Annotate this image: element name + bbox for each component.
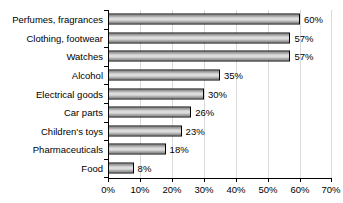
bar [108, 14, 300, 25]
category-label: Children's toys [41, 125, 103, 136]
bar-value-label: 18% [170, 144, 189, 155]
x-axis-tick [172, 178, 173, 182]
x-axis-tick-label: 30% [194, 184, 213, 195]
category-label: Watches [66, 51, 103, 62]
y-axis-tick [104, 159, 108, 160]
category-label: Car parts [64, 107, 103, 118]
category-label: Alcohol [72, 70, 103, 81]
y-axis-tick [104, 122, 108, 123]
bar [108, 51, 290, 62]
category-label: Food [81, 163, 103, 174]
chart-row: Pharmaceuticals 18% [0, 140, 343, 159]
bar [108, 125, 182, 136]
x-axis-tick-label: 60% [290, 184, 309, 195]
x-axis-tick-label: 20% [162, 184, 181, 195]
chart-row: Clothing, footwear 57% [0, 29, 343, 48]
x-axis-tick-label: 50% [258, 184, 277, 195]
x-axis-tick [300, 178, 301, 182]
x-axis-tick-label: 40% [226, 184, 245, 195]
chart-row: Food 8% [0, 159, 343, 178]
chart-row: Perfumes, fragrances 60% [0, 10, 343, 29]
bar-value-label: 35% [224, 70, 243, 81]
x-axis-line [108, 178, 332, 179]
y-axis-tick [104, 103, 108, 104]
bar [108, 70, 220, 81]
chart-row: Car parts 26% [0, 103, 343, 122]
x-axis-tick [236, 178, 237, 182]
bar [108, 88, 204, 99]
y-axis-tick [104, 66, 108, 67]
x-axis-tick-label: 0% [101, 184, 115, 195]
x-axis-tick-label: 70% [321, 184, 340, 195]
y-axis-tick [104, 140, 108, 141]
x-axis-tick [108, 178, 109, 182]
category-label: Electrical goods [36, 88, 103, 99]
bar-value-label: 8% [138, 163, 152, 174]
x-axis-tick-label: 10% [130, 184, 149, 195]
bar [108, 144, 166, 155]
category-label: Perfumes, fragrances [12, 14, 103, 25]
bar-value-label: 57% [294, 32, 313, 43]
y-axis-tick [104, 84, 108, 85]
x-axis-tick [140, 178, 141, 182]
x-axis-tick [268, 178, 269, 182]
bar [108, 163, 134, 174]
bar-chart: Perfumes, fragrances 60% Clothing, footw… [0, 0, 343, 203]
bar [108, 32, 290, 43]
bar-value-label: 23% [186, 125, 205, 136]
bar [108, 107, 191, 118]
y-axis-tick [104, 29, 108, 30]
chart-row: Alcohol 35% [0, 66, 343, 85]
chart-row: Watches 57% [0, 47, 343, 66]
category-label: Clothing, footwear [26, 32, 103, 43]
x-axis-tick [204, 178, 205, 182]
chart-row: Electrical goods 30% [0, 84, 343, 103]
bar-value-label: 30% [208, 88, 227, 99]
bar-value-label: 57% [294, 51, 313, 62]
chart-row: Children's toys 23% [0, 122, 343, 141]
x-axis-tick [331, 178, 332, 182]
category-label: Pharmaceuticals [33, 144, 103, 155]
y-axis-tick [104, 47, 108, 48]
y-axis-tick [104, 10, 108, 11]
bar-value-label: 60% [304, 14, 323, 25]
bar-value-label: 26% [195, 107, 214, 118]
